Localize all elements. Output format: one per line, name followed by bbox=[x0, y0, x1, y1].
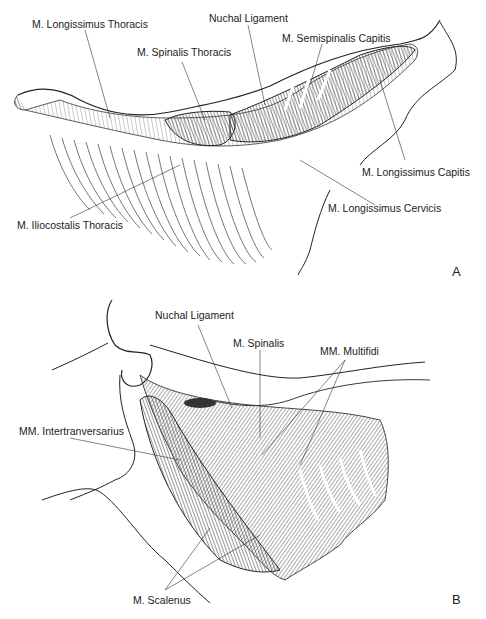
label-m-spinalis: M. Spinalis bbox=[233, 337, 284, 349]
label-m-longissimus-capitis: M. Longissimus Capitis bbox=[362, 166, 470, 178]
label-m-longissimus-thoracis: M. Longissimus Thoracis bbox=[32, 18, 148, 30]
label-m-longissimus-cervicis: M. Longissimus Cervicis bbox=[328, 202, 441, 214]
panel-letter-b: B bbox=[452, 592, 461, 607]
label-m-semispinalis-capitis: M. Semispinalis Capitis bbox=[282, 32, 391, 44]
label-m-spinalis-thoracis: M. Spinalis Thoracis bbox=[137, 46, 231, 58]
label-mm-multifidi: MM. Multifidi bbox=[320, 345, 379, 357]
label-m-scalenus: M. Scalenus bbox=[133, 594, 191, 606]
label-mm-intertranversarius: MM. Intertranversarius bbox=[19, 425, 124, 437]
panel-letter-a: A bbox=[452, 264, 461, 279]
anatomy-illustration bbox=[0, 0, 486, 619]
panel-a-drawing bbox=[15, 20, 457, 275]
label-nuchal-ligament-b: Nuchal Ligament bbox=[155, 309, 234, 321]
label-m-iliocostalis-thoracis: M. Iliocostalis Thoracis bbox=[17, 219, 123, 231]
label-nuchal-ligament-a: Nuchal Ligament bbox=[209, 12, 288, 24]
